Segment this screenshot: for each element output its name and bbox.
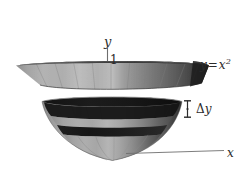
delta-y-midpoint-dot [186, 108, 188, 110]
delta-y-label: Δy [196, 103, 211, 115]
y-axis-label: y [104, 35, 111, 48]
curve-equation-label: y=x2 [200, 57, 231, 71]
curve-eq-rhs-exponent: 2 [226, 56, 231, 66]
delta-symbol: Δ [196, 102, 205, 116]
figure-canvas: y 1 y=x2 Δy x [0, 0, 245, 172]
lower-bowl-group [42, 96, 182, 161]
curve-eq-relation: = [207, 58, 219, 72]
y-axis-tick-label-1: 1 [110, 54, 118, 66]
paraboloid-illustration [0, 0, 245, 172]
delta-variable: y [205, 102, 212, 116]
curve-eq-rhs-base: x [219, 58, 226, 72]
delta-y-dimension-mark [184, 101, 191, 118]
x-axis-label: x [227, 147, 234, 159]
curve-eq-lhs: y [200, 58, 207, 72]
